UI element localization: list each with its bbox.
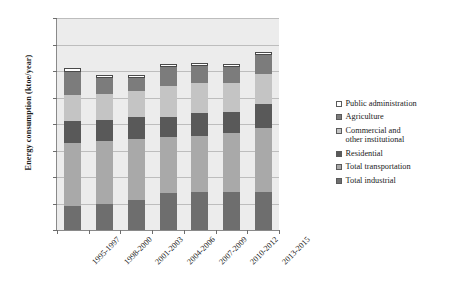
legend-item-label: Residential (346, 149, 449, 158)
x-axis-tick-mark (216, 230, 217, 234)
x-axis-tick-label: 2007-2009 (217, 235, 248, 266)
x-axis-tick-mark (120, 230, 121, 234)
bar-segment (255, 192, 272, 230)
legend-item: Total transportation (336, 162, 448, 171)
bar-segment (223, 133, 240, 191)
bar-segment (64, 121, 81, 142)
bar-segment (128, 117, 145, 138)
legend-item: Residential (336, 149, 448, 158)
bar-segment (128, 139, 145, 200)
legend-item-label: Commercial and other institutional (346, 126, 449, 145)
bar-column (96, 18, 113, 230)
bar-segment (96, 75, 113, 78)
bar-segment (64, 68, 81, 72)
bar-column (255, 18, 272, 230)
bar-segment (255, 128, 272, 192)
x-axis-tick-label: 2001-2003 (154, 235, 185, 266)
bar-segment (64, 206, 81, 230)
legend-item-label: Public administration (346, 99, 449, 108)
y-axis-tick-mark (53, 45, 57, 46)
legend-swatch-icon (336, 128, 342, 134)
y-axis-tick-mark (53, 98, 57, 99)
bar-column (223, 18, 240, 230)
bar-segment (255, 74, 272, 104)
bar-segment (96, 78, 113, 94)
x-axis-tick-mark (247, 230, 248, 234)
legend-item-label: Agriculture (346, 112, 449, 121)
bar-segment (223, 83, 240, 112)
y-axis-tick-mark (53, 71, 57, 72)
x-axis-tick-label: 2004-2006 (185, 235, 216, 266)
x-axis-tick-label: 2013-2015 (281, 235, 312, 266)
legend-swatch-icon (336, 178, 342, 184)
y-axis-tick-mark (53, 204, 57, 205)
bar-segment (255, 104, 272, 128)
legend-swatch-icon (336, 151, 342, 157)
bar-segment (160, 64, 177, 67)
bar-segment (128, 200, 145, 230)
bar-segment (128, 91, 145, 118)
bar-segment (128, 78, 145, 91)
bar-column (128, 18, 145, 230)
x-axis-tick-mark (152, 230, 153, 234)
x-axis-tick-label: 1995-1997 (90, 235, 121, 266)
bar-segment (160, 67, 177, 86)
bar-segment (160, 86, 177, 118)
bar-column (160, 18, 177, 230)
y-axis-title: Energy consumption (ktoe/year) (24, 23, 33, 203)
bar-segment (255, 55, 272, 74)
legend-item-label: Total industrial (346, 176, 449, 185)
legend-item: Agriculture (336, 112, 448, 121)
stacked-bar-chart: Energy consumption (ktoe/year) 01,0002,0… (0, 0, 450, 297)
x-axis-tick-mark (184, 230, 185, 234)
legend-item: Public administration (336, 99, 448, 108)
bar-segment (96, 204, 113, 231)
bar-segment (191, 192, 208, 230)
x-axis-tick-mark (279, 230, 280, 234)
y-axis-tick-mark (53, 151, 57, 152)
legend-swatch-icon (336, 101, 342, 107)
bar-segment (223, 64, 240, 67)
bar-segment (255, 52, 272, 55)
bar-segment (191, 83, 208, 113)
y-axis-tick-mark (53, 124, 57, 125)
bar-segment (64, 95, 81, 122)
bar-segment (96, 141, 113, 203)
bar-segment (223, 67, 240, 83)
bar-segment (191, 63, 208, 66)
bar-segment (160, 193, 177, 230)
legend-swatch-icon (336, 164, 342, 170)
bar-segment (223, 112, 240, 133)
bar-segment (223, 192, 240, 230)
bar-segment (160, 137, 177, 193)
legend-swatch-icon (336, 114, 342, 120)
x-axis-tick-label: 2010-2012 (249, 235, 280, 266)
bar-segment (191, 66, 208, 83)
bar-column (191, 18, 208, 230)
x-axis-tick-mark (57, 230, 58, 234)
bar-segment (64, 72, 81, 95)
y-axis-tick-mark (53, 18, 57, 19)
plot-area (56, 18, 279, 231)
x-axis-tick-mark (89, 230, 90, 234)
legend-item-label: Total transportation (346, 162, 449, 171)
bar-segment (96, 94, 113, 121)
x-axis-tick-label: 1998-2000 (122, 235, 153, 266)
legend-item: Commercial and other institutional (336, 126, 448, 145)
bar-segment (191, 136, 208, 192)
y-axis-tick-mark (53, 177, 57, 178)
bar-segment (64, 143, 81, 207)
bar-segment (128, 75, 145, 78)
bar-segment (160, 117, 177, 137)
bar-column (64, 18, 81, 230)
bar-segment (96, 120, 113, 141)
legend-item: Total industrial (336, 176, 448, 185)
chart-legend: Public administrationAgricultureCommerci… (336, 99, 448, 189)
bar-segment (191, 113, 208, 136)
